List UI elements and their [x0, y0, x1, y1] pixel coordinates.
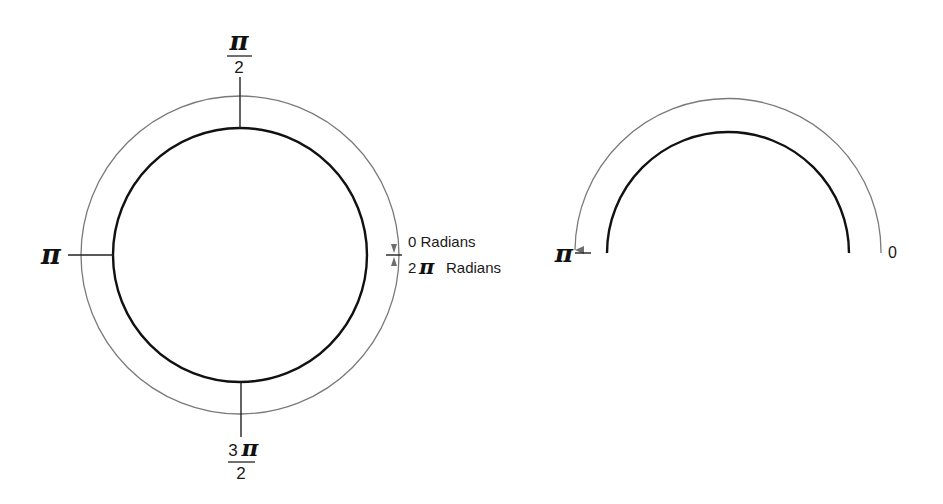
label-two-pi-radians: Radians	[446, 259, 501, 276]
outer-rotation-arc	[575, 98, 881, 253]
label-bottom-symbol: π	[241, 434, 260, 461]
outer-rotation-circle	[81, 96, 399, 414]
label-two-pi-symbol: π	[418, 254, 435, 279]
label-left: π	[40, 239, 62, 270]
arrow-up-icon	[391, 257, 397, 266]
label-top-numerator: π	[228, 26, 249, 56]
radians-diagram: π 2 π 3 π 2 0 Radians 2 π Radians π 0	[0, 0, 943, 504]
label-bottom-denominator: 2	[236, 464, 245, 483]
label-bottom-digit: 3	[228, 441, 237, 460]
label-top-denominator: 2	[234, 58, 243, 77]
arrow-down-icon	[391, 244, 397, 253]
label-pi: π	[554, 239, 574, 268]
full-circle-diagram: π 2 π 3 π 2 0 Radians 2 π Radians	[40, 26, 501, 483]
label-two-pi-digit: 2	[408, 259, 416, 276]
label-zero: 0	[888, 244, 897, 261]
inner-circle	[113, 128, 367, 382]
label-zero-radians: 0 Radians	[408, 233, 476, 250]
inner-semicircle	[607, 132, 849, 253]
half-circle-diagram: π 0	[554, 98, 897, 268]
